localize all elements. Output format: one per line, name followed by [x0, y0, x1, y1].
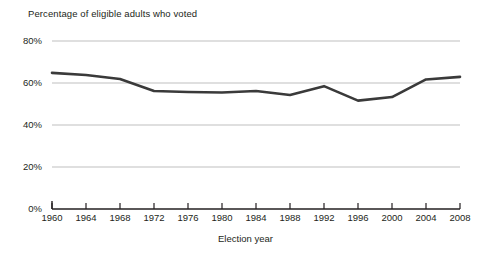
x-tick-label: 1964	[69, 212, 103, 223]
x-tick-label: 1984	[239, 212, 273, 223]
y-tick-label: 20%	[8, 161, 42, 172]
x-tick-label: 2008	[443, 212, 477, 223]
x-tick-label: 1972	[137, 212, 171, 223]
y-tick-label: 60%	[8, 77, 42, 88]
x-tick-label: 1988	[273, 212, 307, 223]
x-tick-label: 1976	[171, 212, 205, 223]
turnout-line-series	[52, 73, 460, 101]
x-tick-label: 2004	[409, 212, 443, 223]
x-tick-label: 1968	[103, 212, 137, 223]
x-tick-label: 2000	[375, 212, 409, 223]
y-tick-label: 80%	[8, 35, 42, 46]
x-tick-label: 1960	[35, 212, 69, 223]
x-tick-mark-group	[52, 203, 460, 209]
gridline-group	[52, 41, 460, 167]
x-tick-label: 1996	[341, 212, 375, 223]
x-axis-title: Election year	[0, 233, 491, 244]
x-tick-label: 1980	[205, 212, 239, 223]
x-tick-label: 1992	[307, 212, 341, 223]
voter-turnout-chart: Percentage of eligible adults who voted …	[0, 0, 491, 257]
y-tick-label: 40%	[8, 119, 42, 130]
